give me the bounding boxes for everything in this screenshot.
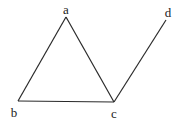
edge-a-b	[18, 17, 66, 101]
edge-a-c	[66, 17, 114, 102]
node-label-d: d	[165, 5, 172, 20]
node-label-a: a	[63, 2, 69, 17]
node-label-c: c	[111, 106, 117, 121]
graph-diagram: a b c d	[0, 0, 189, 124]
node-label-b: b	[11, 105, 18, 120]
edge-c-d	[114, 20, 166, 102]
edge-b-c	[18, 101, 114, 102]
